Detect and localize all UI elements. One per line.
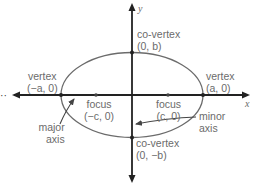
x-axis-left-arrow-icon (12, 92, 20, 99)
vertex-right-coord: (a, 0) (206, 82, 235, 94)
focus-right-label: focus (c, 0) (156, 98, 181, 122)
vertex-right-title: vertex (206, 70, 235, 82)
co-vertex-bottom-title: co-vertex (136, 137, 179, 149)
y-axis-label: y (138, 3, 142, 14)
ellipsis-marker: ·· (0, 89, 7, 101)
focus-right-title: focus (156, 98, 181, 110)
co-vertex-bottom-coord: (0, −b) (136, 149, 179, 161)
co-vertex-top-coord: (0, b) (137, 40, 180, 52)
vertex-right-label: vertex (a, 0) (206, 70, 235, 94)
vertex-right-point (201, 93, 205, 97)
co-vertex-bottom-label: co-vertex (0, −b) (136, 137, 179, 161)
co-vertex-top-title: co-vertex (137, 28, 180, 40)
focus-left-label: focus (−c, 0) (84, 98, 114, 122)
focus-left-title: focus (84, 98, 114, 110)
y-axis-up-arrow-icon (129, 3, 136, 11)
minor-axis-line2: axis (199, 122, 225, 134)
major-axis-line2: axis (38, 133, 65, 145)
major-axis-label: major axis (38, 121, 65, 145)
vertex-left-coord: (−a, 0) (27, 82, 58, 94)
co-vertex-bottom-point (130, 136, 134, 140)
co-vertex-top-label: co-vertex (0, b) (137, 28, 180, 52)
minor-axis-line1: minor (199, 110, 225, 122)
vertex-left-title: vertex (27, 70, 58, 82)
x-axis-label: x (245, 98, 249, 109)
y-axis-down-arrow-icon (129, 175, 136, 183)
focus-right-coord: (c, 0) (156, 110, 181, 122)
vertex-left-point (59, 93, 63, 97)
focus-left-coord: (−c, 0) (84, 110, 114, 122)
major-axis-line1: major (38, 121, 65, 133)
focus-right-point (166, 93, 170, 97)
co-vertex-top-point (130, 51, 134, 55)
focus-left-point (94, 93, 98, 97)
minor-axis-label: minor axis (199, 110, 225, 134)
vertex-left-label: vertex (−a, 0) (27, 70, 58, 94)
